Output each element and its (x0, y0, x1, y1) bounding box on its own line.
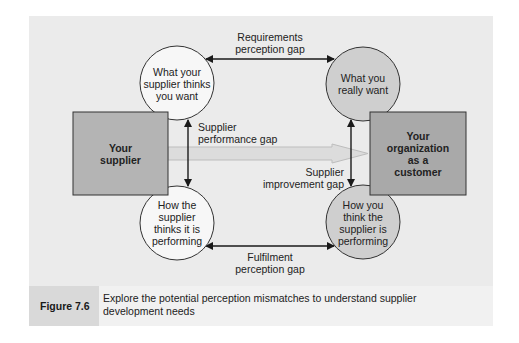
label-line: Your (73, 142, 168, 154)
requirements-gap-label: Requirements perception gap (222, 31, 318, 55)
figure-caption: Figure 7.6 Explore the potential percept… (29, 286, 493, 326)
label-line: performing (326, 235, 400, 247)
label-line: supplier (140, 211, 214, 223)
label-line: performance gap (198, 133, 308, 145)
supplier-box-text: Your supplier (73, 142, 168, 166)
label-line: organization (370, 142, 466, 154)
fulfilment-gap-label: Fulfilment perception gap (222, 251, 318, 275)
label-line: thinks it is (140, 223, 214, 235)
circle-top-left-text: What your supplier thinks you want (140, 66, 214, 102)
label-line: How the (140, 199, 214, 211)
label-line: What you (326, 72, 400, 84)
label-line: think the (326, 211, 400, 223)
label-line: perception gap (222, 263, 318, 275)
customer-box-text: Your organization as a customer (370, 130, 466, 178)
caption-line: development needs (103, 305, 483, 318)
circle-bottom-left-text: How the supplier thinks it is performing (140, 199, 214, 247)
label-line: What your (140, 66, 214, 78)
label-line: Supplier (244, 166, 344, 178)
label-line: customer (370, 166, 466, 178)
label-line: Requirements (222, 31, 318, 43)
supplier-improvement-gap-label: Supplier improvement gap (244, 166, 344, 190)
label-line: performing (140, 235, 214, 247)
label-line: supplier is (326, 223, 400, 235)
circle-top-right-text: What you really want (326, 72, 400, 96)
caption-text: Explore the potential perception mismatc… (103, 292, 483, 318)
circle-bottom-right-text: How you think the supplier is performing (326, 199, 400, 247)
label-line: Your (370, 130, 466, 142)
label-line: How you (326, 199, 400, 211)
big-flow-arrow (168, 144, 368, 163)
supplier-performance-gap-label: Supplier performance gap (198, 121, 308, 145)
label-line: you want (140, 90, 214, 102)
label-line: improvement gap (244, 178, 344, 190)
label-line: really want (326, 84, 400, 96)
label-line: perception gap (222, 43, 318, 55)
label-line: Supplier (198, 121, 308, 133)
figure-number: Figure 7.6 (29, 286, 99, 326)
label-line: supplier (73, 154, 168, 166)
caption-line: Explore the potential perception mismatc… (103, 292, 483, 305)
label-line: as a (370, 154, 466, 166)
label-line: supplier thinks (140, 78, 214, 90)
label-line: Fulfilment (222, 251, 318, 263)
